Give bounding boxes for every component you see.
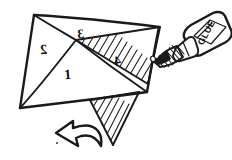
face-label-2: 2 [40, 42, 48, 57]
glue-bottle: GLUE [152, 12, 232, 74]
illustration-canvas: 1 2 3 4 GLUE [0, 0, 232, 160]
sketch-drawing: 1 2 3 4 GLUE [0, 0, 232, 160]
bottle-neck [173, 37, 198, 61]
face-label-1: 1 [64, 67, 72, 82]
fold-direction-arrow [56, 121, 101, 146]
